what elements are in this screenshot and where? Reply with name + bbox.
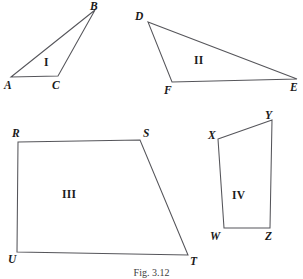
vertex-label-t: T (190, 256, 197, 268)
vertex-label-a: A (4, 80, 12, 92)
vertex-label-e: E (290, 82, 298, 94)
region-label-i: I (44, 57, 49, 69)
vertex-label-f: F (164, 85, 172, 97)
vertex-label-w: W (210, 231, 220, 243)
shape-outline-triangle-ii (148, 22, 297, 82)
region-label-iii: III (62, 189, 76, 201)
shape-outline-quad-iv (218, 120, 272, 228)
vertex-label-z: Z (265, 231, 272, 243)
vertex-label-s: S (143, 128, 150, 140)
geometry-figure: I A B C II D E F III R S T U IV X Y Z W … (0, 0, 303, 279)
figure-canvas (0, 0, 303, 279)
vertex-label-c: C (52, 80, 60, 92)
vertex-label-d: D (135, 11, 144, 23)
shape-outline-quad-iii (17, 140, 188, 255)
vertex-label-u: U (8, 254, 17, 266)
region-label-ii: II (194, 55, 204, 67)
vertex-label-b: B (90, 1, 98, 13)
vertex-label-r: R (12, 128, 20, 140)
region-label-iv: IV (232, 190, 245, 202)
vertex-label-y: Y (265, 110, 272, 122)
figure-caption: Fig. 3.12 (0, 268, 303, 279)
vertex-label-x: X (208, 130, 216, 142)
shape-outline-triangle-i (11, 10, 95, 77)
